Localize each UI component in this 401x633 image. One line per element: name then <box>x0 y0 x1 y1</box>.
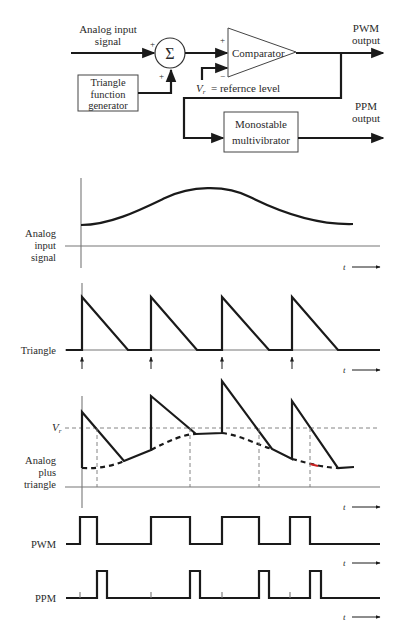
time-label: t <box>343 612 346 622</box>
ppm-output-label-2: output <box>352 112 380 124</box>
analog-envelope-dashed <box>222 433 272 449</box>
pwm-ppm-diagram: Analog input signal + Σ + Triangle funct… <box>0 0 401 633</box>
ppm-plot: PPM t <box>35 571 380 622</box>
sigma-icon: Σ <box>165 45 174 62</box>
pwm-output-label: PWM <box>353 22 380 34</box>
time-label: t <box>343 365 346 375</box>
pwm-output-label-2: output <box>352 34 380 46</box>
analog-input-label-2: signal <box>95 35 121 47</box>
analog-plus-triangle-waveform <box>82 381 354 468</box>
triangle-waveform <box>66 297 380 350</box>
comparator-label: Comparator <box>232 47 285 59</box>
ppm-waveform <box>66 571 380 598</box>
analog-input-axis-label-3: signal <box>31 252 56 263</box>
pwm-waveform <box>66 517 380 544</box>
highlight-segment <box>310 464 318 466</box>
triangle-plot: Triangle t <box>21 283 380 375</box>
reference-symbol: Vr <box>196 82 206 96</box>
triangle-generator-label-2: function <box>91 89 127 100</box>
analog-plus-triangle-plot: Vr Analog plus triangle t <box>24 381 380 512</box>
pwm-axis-label: PWM <box>31 539 57 550</box>
time-label: t <box>343 262 346 272</box>
analog-input-plot: Analog input signal t <box>25 178 380 272</box>
analog-plus-triangle-label: Analog <box>25 455 57 466</box>
vr-label: Vr <box>52 421 62 435</box>
analog-plus-triangle-label-2: plus <box>38 467 56 478</box>
block-diagram: Analog input signal + Σ + Triangle funct… <box>71 22 383 152</box>
analog-signal-curve <box>81 188 353 225</box>
analog-envelope-dashed <box>151 434 196 450</box>
summer-plus-left: + <box>150 39 155 49</box>
reference-label: = refernce level <box>211 82 280 94</box>
ppm-output-label: PPM <box>355 100 377 112</box>
monostable-label-1: Monostable <box>235 118 287 130</box>
triangle-axis-label: Triangle <box>21 345 57 356</box>
triangle-generator-label-3: generator <box>88 100 128 111</box>
time-label: t <box>343 502 346 512</box>
monostable-label-2: multivibrator <box>232 134 290 146</box>
ppm-axis-label: PPM <box>35 593 57 604</box>
analog-envelope-dashed <box>82 461 124 468</box>
analog-plus-triangle-label-3: triangle <box>24 479 56 490</box>
analog-input-axis-label-2: input <box>34 240 56 251</box>
comparator-plus: + <box>220 35 225 45</box>
analog-envelope-dashed <box>292 459 338 468</box>
time-label: t <box>343 558 346 568</box>
triangle-generator-label-1: Triangle <box>90 77 126 88</box>
triangle-to-summer-arrow <box>138 70 171 93</box>
comparator-minus: − <box>220 71 225 81</box>
analog-input-axis-label: Analog <box>25 228 57 239</box>
pwm-plot: PWM t <box>31 517 380 568</box>
analog-input-label: Analog input <box>79 23 137 35</box>
summer-plus-bottom: + <box>159 71 164 81</box>
